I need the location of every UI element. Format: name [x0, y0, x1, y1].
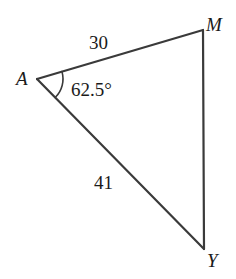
vertex-label-y: Y — [207, 251, 218, 270]
vertex-label-a: A — [16, 69, 28, 88]
triangle-diagram: A M Y 30 41 62.5° — [0, 0, 236, 279]
side-length-label-ay: 41 — [94, 173, 113, 192]
triangle-drawing — [0, 0, 236, 279]
angle-measure-label-a: 62.5° — [71, 80, 112, 99]
triangle-side-ay — [37, 79, 204, 249]
vertex-label-m: M — [206, 15, 222, 34]
triangle-side-my — [203, 30, 204, 249]
side-length-label-am: 30 — [89, 33, 108, 52]
angle-arc-a — [55, 72, 63, 98]
